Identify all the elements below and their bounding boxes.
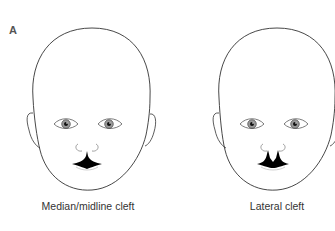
face-illustration-median: Median/midline cleft bbox=[0, 0, 170, 200]
eye-left-icon bbox=[240, 119, 264, 129]
cleft-lateral-shape bbox=[257, 150, 289, 168]
cleft-median-shape bbox=[72, 151, 102, 169]
caption-lateral: Lateral cleft bbox=[192, 200, 335, 212]
face-illustration-lateral: Lateral cleft bbox=[165, 0, 335, 200]
caption-median: Median/midline cleft bbox=[3, 200, 173, 212]
eye-right-icon bbox=[98, 119, 122, 129]
eye-right-icon bbox=[284, 119, 308, 129]
face-lateral-drawing bbox=[165, 0, 335, 200]
face-median-drawing bbox=[0, 0, 170, 200]
eye-left-icon bbox=[54, 119, 78, 129]
